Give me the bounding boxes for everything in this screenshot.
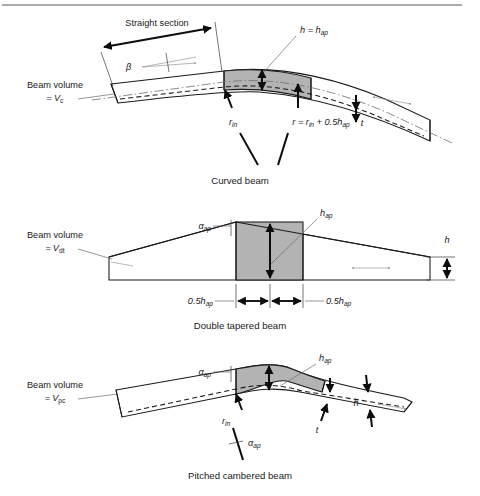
panel-double-tapered-beam: αap hap 0.5hap 0.5hap xyxy=(27,208,455,331)
r-in-caption-stem xyxy=(240,133,258,165)
r-in-label: rin xyxy=(222,416,231,427)
panel-curved-beam: Straight section β h = hap rin r = rin xyxy=(27,18,452,186)
volume-label-line1: Beam volume xyxy=(27,80,83,90)
h-right-label: h xyxy=(444,235,449,245)
beam-geometry-figure: Straight section β h = hap rin r = rin xyxy=(0,0,480,496)
r-in-label: rin xyxy=(229,117,238,128)
h-equals-label: h = hap xyxy=(300,25,328,37)
r-in-stem xyxy=(233,428,243,460)
t-label: t xyxy=(361,118,364,128)
half-h-left-label: 0.5hap xyxy=(188,296,214,308)
straight-section-label: Straight section xyxy=(125,18,188,28)
h-ap-label: hap xyxy=(320,208,333,220)
h-equals-leader xyxy=(263,36,296,73)
volume-label-line2: =Vdt xyxy=(45,243,64,254)
alpha-ap-bottom-label: αap xyxy=(248,438,261,450)
h-arrow-upper xyxy=(366,375,368,392)
radius-caption-stem xyxy=(278,133,288,165)
t-label: t xyxy=(316,425,319,435)
volume-label-leader xyxy=(78,394,118,399)
panel-caption-curved-beam: Curved beam xyxy=(211,175,269,186)
straight-section-ext-left xyxy=(101,52,113,86)
volume-label-line1: Beam volume xyxy=(27,230,83,240)
half-h-right-label: 0.5hap xyxy=(326,296,352,308)
h-ap-label: hap xyxy=(319,353,332,365)
volume-label-line1: Beam volume xyxy=(27,380,83,390)
beta-ray-lower xyxy=(142,63,196,67)
volume-label-line2: =Vc xyxy=(47,93,65,104)
volume-label-line2: =Vpc xyxy=(45,393,66,405)
h-arrow-lower xyxy=(370,410,372,427)
panel-caption-pitched-cambered: Pitched cambered beam xyxy=(188,470,292,481)
h-label: h xyxy=(353,398,358,408)
straight-section-ext-right xyxy=(215,22,222,72)
figure-root: Straight section β h = hap rin r = rin xyxy=(0,0,480,496)
t-arrow-lower xyxy=(321,404,327,421)
alpha-ap-bottom-tick xyxy=(229,441,243,444)
panel-caption-double-tapered: Double tapered beam xyxy=(194,320,286,331)
r-in-arrow xyxy=(236,394,242,410)
volume-label-leader xyxy=(78,249,112,259)
panel-pitched-cambered-beam: αap hap rin αap t h xyxy=(27,353,412,481)
volume-label-leader xyxy=(78,94,114,99)
beta-ray-upper xyxy=(142,57,196,67)
beta-label: β xyxy=(125,62,132,72)
straight-section-dimension xyxy=(104,28,211,47)
radius-expression-label: r = rin + 0.5hap xyxy=(292,117,350,129)
